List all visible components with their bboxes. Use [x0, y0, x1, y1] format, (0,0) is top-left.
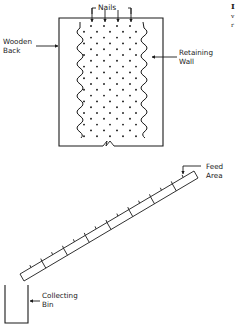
nails-label: Nails — [98, 3, 116, 12]
feed-area-label-line1: Feed — [206, 162, 223, 171]
feed-area-label: Feed Area — [206, 162, 223, 180]
wooden-back-label-line2: Back — [3, 46, 32, 55]
edge-text-line3: r — [231, 20, 235, 29]
collecting-bin — [5, 285, 28, 323]
collecting-bin-label: Collecting Bin — [42, 291, 78, 309]
wooden-back-label-line1: Wooden — [3, 37, 32, 46]
edge-text-line1: I — [231, 2, 235, 11]
wooden-back-board — [59, 18, 163, 146]
nail-dot-grid — [83, 25, 137, 137]
cropped-edge-text: I v r — [231, 2, 235, 29]
inclined-ramp — [20, 171, 198, 281]
feed-area-arrow — [183, 166, 201, 174]
right-retaining-wall — [141, 22, 147, 138]
collecting-bin-label-line2: Bin — [42, 300, 78, 309]
retaining-wall-label-line2: Wall — [179, 57, 213, 66]
feed-area-label-line2: Area — [206, 171, 223, 180]
retaining-wall-label: Retaining Wall — [179, 48, 213, 66]
wooden-back-label: Wooden Back — [3, 37, 32, 55]
collecting-bin-label-line1: Collecting — [42, 291, 78, 300]
retaining-wall-label-line1: Retaining — [179, 48, 213, 57]
left-retaining-wall — [77, 22, 83, 138]
edge-text-line2: v — [231, 11, 235, 20]
